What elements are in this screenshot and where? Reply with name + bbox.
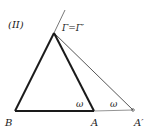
side-gamma-a-prime	[54, 33, 133, 110]
apex-label: Γ=Γ′	[61, 23, 84, 33]
base-extension-a-a-prime	[94, 110, 133, 111]
vertex-b-label: B	[4, 117, 12, 128]
vertex-a-prime-label: A′	[133, 117, 144, 128]
panel-label: (II)	[8, 19, 24, 30]
vertex-a-label: A	[90, 117, 98, 128]
side-b-gamma	[15, 33, 54, 111]
geometry-figure: (II) Γ=Γ′ B A A′ ω ω	[0, 0, 155, 129]
angle-omega-at-a-prime: ω	[110, 99, 118, 109]
side-gamma-a	[54, 33, 94, 111]
angle-omega-at-a: ω	[76, 99, 84, 109]
